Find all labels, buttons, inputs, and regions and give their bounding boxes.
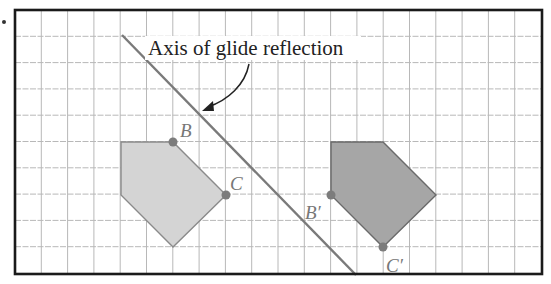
bullet-icon [2, 20, 6, 24]
arrow-head-icon [202, 101, 214, 111]
image-polygon [331, 142, 436, 247]
preimage-polygon [121, 142, 226, 247]
axis-label: Axis of glide reflection [148, 36, 344, 60]
label-b: B [180, 120, 192, 141]
label-b-prime: B′ [305, 202, 322, 223]
arrow-curve [208, 64, 249, 107]
point-b-prime [327, 191, 336, 200]
label-c: C [230, 173, 243, 194]
point-c-prime [379, 243, 388, 252]
glide-reflection-diagram: B C B′ C′ Axis of glide reflection [0, 0, 551, 284]
point-b [169, 138, 178, 147]
